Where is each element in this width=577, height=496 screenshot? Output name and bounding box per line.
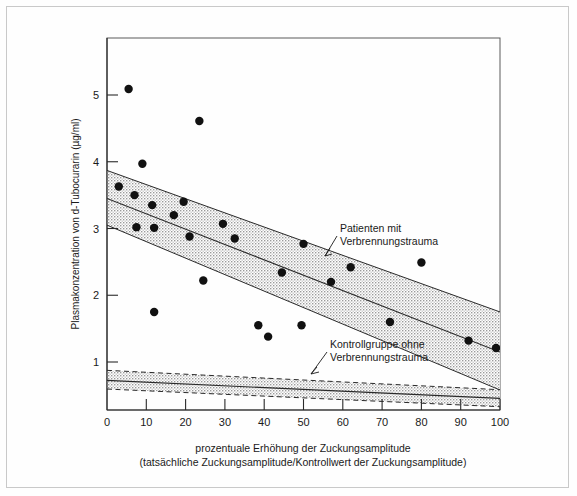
data-point xyxy=(346,263,354,271)
y-tick-label: 3 xyxy=(93,223,99,235)
patients-annotation-line2: Verbrennungstrauma xyxy=(340,235,438,247)
data-point xyxy=(231,234,239,242)
scatter-plot: 12345 0102030405060708090100 Patienten m… xyxy=(0,0,577,496)
data-point xyxy=(264,332,272,340)
data-point xyxy=(150,308,158,316)
data-point xyxy=(195,117,203,125)
data-point xyxy=(417,258,425,266)
y-tick-label: 4 xyxy=(93,156,99,168)
data-point xyxy=(492,344,500,352)
x-tick-label: 30 xyxy=(219,416,231,428)
data-point xyxy=(254,321,262,329)
data-point xyxy=(132,223,140,231)
data-point xyxy=(219,220,227,228)
annotation-patients: Patienten mit Verbrennungstrauma xyxy=(325,222,438,256)
data-point xyxy=(185,232,193,240)
data-point xyxy=(170,211,178,219)
data-point xyxy=(297,321,305,329)
data-point xyxy=(179,198,187,206)
data-point xyxy=(278,268,286,276)
x-tick-label: 50 xyxy=(297,416,309,428)
x-tick-label: 90 xyxy=(455,416,467,428)
control-annotation-line2: Verbrennungstrauma xyxy=(330,351,428,363)
x-tick-label: 0 xyxy=(104,416,110,428)
x-tick-label: 70 xyxy=(376,416,388,428)
data-point xyxy=(464,336,472,344)
patients-annotation-line1: Patienten mit xyxy=(340,222,401,234)
x-tick-label: 60 xyxy=(337,416,349,428)
data-point xyxy=(115,182,123,190)
data-point xyxy=(150,224,158,232)
data-point xyxy=(124,85,132,93)
figure-container: 12345 0102030405060708090100 Patienten m… xyxy=(0,0,577,496)
x-axis-title-line1: prozentuale Erhöhung der Zuckungsamplitu… xyxy=(195,442,411,454)
data-point xyxy=(299,240,307,248)
y-tick-label: 5 xyxy=(93,89,99,101)
y-axis-ticks: 12345 xyxy=(93,89,118,368)
data-point xyxy=(138,160,146,168)
control-annotation-line1: Kontrollgruppe ohne xyxy=(330,338,425,350)
data-point xyxy=(148,201,156,209)
x-tick-label: 20 xyxy=(179,416,191,428)
x-tick-label: 40 xyxy=(258,416,270,428)
y-tick-label: 1 xyxy=(93,356,99,368)
data-point xyxy=(386,318,394,326)
data-point xyxy=(327,278,335,286)
x-tick-label: 10 xyxy=(140,416,152,428)
y-tick-label: 2 xyxy=(93,289,99,301)
x-tick-label: 80 xyxy=(415,416,427,428)
y-axis-title: Plasmakonzentration von d-Tubocurarin (µ… xyxy=(70,118,81,329)
data-point xyxy=(199,276,207,284)
regression-bands xyxy=(107,170,500,406)
data-point xyxy=(130,191,138,199)
annotation-control: Kontrollgruppe ohne Verbrennungstrauma xyxy=(311,338,428,374)
x-tick-label: 100 xyxy=(491,416,509,428)
x-axis-title-line2: (tatsächliche Zuckungsamplitude/Kontroll… xyxy=(140,456,467,468)
band-fill xyxy=(107,170,500,390)
